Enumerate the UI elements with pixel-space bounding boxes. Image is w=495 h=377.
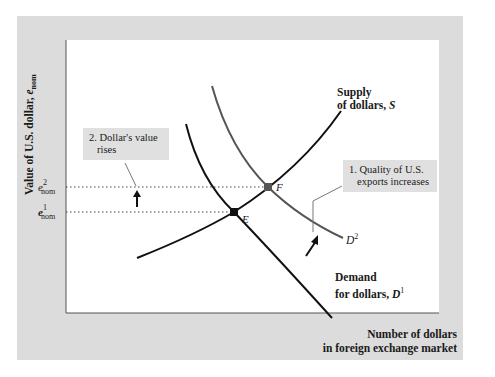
tick-e1-sup: 1 (43, 203, 47, 212)
y-axis-label-sub: nom (29, 74, 38, 89)
up-arrow-icon (133, 190, 141, 207)
callout-value-line1: 2. Dollar's value (89, 132, 163, 144)
point-f-label: F (276, 181, 283, 193)
exchange-rate-diagram: Value of U.S. dollar, enom e2nom e1nom E… (0, 0, 495, 377)
callout-quality-increase: 1. Quality of U.S. exports increases (343, 160, 437, 192)
demand-d2-label: D2 (346, 232, 358, 246)
shift-arrow-icon (306, 235, 318, 256)
y-axis-label-var: e (23, 89, 35, 94)
tick-e1-nom: e1nom (38, 205, 55, 221)
y-axis-label: Value of U.S. dollar, enom (20, 40, 44, 260)
y-axis-label-text: Value of U.S. dollar, (23, 95, 35, 195)
callout-quality-line2: exports increases (349, 176, 431, 188)
supply-label-var: S (389, 99, 395, 111)
callout-quality-line1: 1. Quality of U.S. (349, 164, 431, 176)
supply-label-line2: of dollars, (337, 99, 389, 111)
d2-label-sup: 2 (354, 232, 358, 241)
demand-label-sup: 1 (400, 286, 404, 295)
tick-e2-sub: nom (41, 187, 55, 196)
x-axis-label: Number of dollars in foreign exchange ma… (323, 327, 457, 355)
x-axis-label-line1: Number of dollars (323, 327, 457, 341)
supply-label-line1: Supply (337, 86, 395, 99)
supply-curve-label: Supply of dollars, S (337, 86, 395, 112)
point-e-label: E (242, 213, 249, 225)
demand-label-line2: for dollars, (335, 288, 392, 300)
point-f-marker (264, 183, 272, 191)
value-leader-line (125, 163, 136, 186)
point-e-marker (230, 208, 238, 216)
callout-value-line2: rises (89, 144, 163, 156)
tick-e2-sup: 2 (43, 178, 47, 187)
tick-e2-nom: e2nom (38, 180, 55, 196)
demand-d1-label: Demand for dollars, D1 (335, 271, 404, 301)
callout-value-rises: 2. Dollar's value rises (83, 128, 169, 160)
demand-label-line1: Demand (335, 271, 404, 284)
tick-e1-sub: nom (41, 212, 55, 221)
x-axis-label-line2: in foreign exchange market (323, 341, 457, 355)
